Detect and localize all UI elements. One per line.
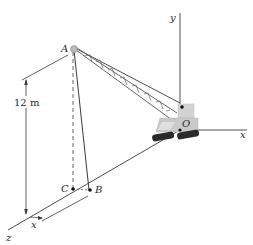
z-axis: [8, 130, 180, 230]
hoist-cable: [75, 48, 180, 103]
label-a: A: [60, 43, 68, 54]
offset-line: [42, 196, 88, 221]
label-o: O: [182, 118, 190, 129]
label-z: z: [5, 232, 12, 243]
arrow-down-icon: [24, 209, 28, 215]
crane-diagram: 12 m x A C B O y x z: [0, 0, 253, 245]
label-y: y: [169, 12, 176, 23]
cb-dashed-line: [73, 189, 89, 190]
label-c: C: [61, 183, 69, 194]
point-c: [71, 187, 75, 191]
cable-ab: [74, 50, 89, 190]
crane-body: [152, 104, 200, 142]
crane-boom: [76, 48, 177, 120]
height-label: 12 m: [14, 97, 40, 108]
extension-line: [22, 55, 68, 80]
boom-tip-pulley: [71, 46, 78, 53]
point-b: [88, 188, 92, 192]
x-dimension-label: x: [31, 219, 37, 230]
arrow-right-icon: [38, 216, 43, 220]
label-b: B: [94, 184, 102, 195]
arrow-up-icon: [24, 79, 28, 85]
label-x: x: [240, 129, 246, 140]
cab-pin: [180, 105, 184, 109]
